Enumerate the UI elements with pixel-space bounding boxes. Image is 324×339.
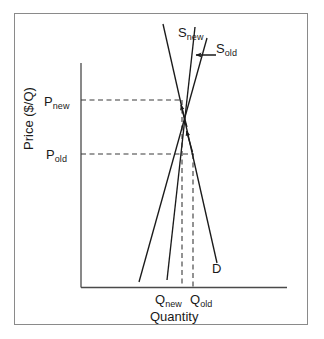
x-axis-title: Quantity: [150, 310, 198, 323]
movement-arrow-lower-icon: [187, 131, 193, 152]
quantity-old-label: Qold: [190, 291, 212, 309]
supply-old-label: Sold: [216, 40, 237, 58]
supply-old-curve: [139, 38, 207, 282]
quantity-new-label: Qnew: [155, 291, 182, 309]
supply-new-curve: [167, 27, 195, 280]
price-old-label: Pold: [46, 146, 67, 164]
demand-label: D: [212, 262, 221, 275]
y-axis-title: Price ($/Q): [22, 87, 35, 150]
price-new-label: Pnew: [44, 93, 69, 111]
supply-new-label: Snew: [178, 24, 203, 42]
supply-demand-chart: [0, 0, 324, 339]
figure-page: Snew Sold D Pnew Pold Qnew Qold Quantity…: [0, 0, 324, 339]
